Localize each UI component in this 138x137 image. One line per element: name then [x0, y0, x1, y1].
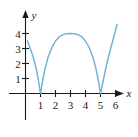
y-axis-label: y: [31, 9, 37, 21]
x-tick-label-4: 4: [83, 99, 89, 111]
x-axis-label: x: [126, 87, 132, 99]
y-tick-label-2: 2: [15, 58, 21, 70]
coordinate-plane: 1 2 3 4 5 6 1 2 3 4 x y: [0, 0, 138, 137]
y-tick-label-1: 1: [15, 73, 21, 85]
x-tick-label-1: 1: [38, 99, 44, 111]
x-tick-label-2: 2: [53, 99, 59, 111]
y-tick-label-4: 4: [15, 28, 21, 40]
x-tick-label-3: 3: [68, 99, 74, 111]
function-curve: [27, 25, 117, 94]
y-tick-label-3: 3: [15, 43, 21, 55]
x-axis-arrowhead: [116, 90, 124, 96]
graph-figure: 1 2 3 4 5 6 1 2 3 4 x y: [0, 0, 138, 137]
x-tick-label-6: 6: [113, 99, 119, 111]
x-tick-label-5: 5: [98, 99, 104, 111]
y-axis-arrowhead: [22, 10, 28, 18]
